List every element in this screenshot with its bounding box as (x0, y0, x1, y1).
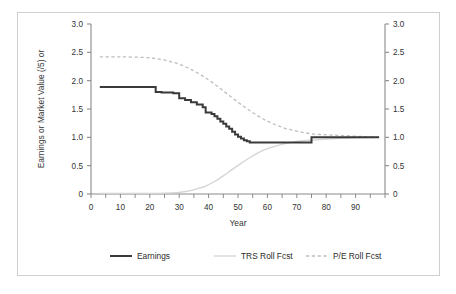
y-tick-label-left: 1.5 (72, 105, 84, 114)
series-line-trs-roll-fcst (100, 137, 379, 193)
legend-label-trs-roll-fcst: TRS Roll Fcst (241, 251, 293, 261)
y-tick-label-left: 1.0 (72, 133, 84, 142)
x-tick-label: 70 (292, 203, 302, 212)
y-tick-label-left: 3.0 (72, 20, 84, 29)
y-tick-label-right: 3.0 (393, 20, 405, 29)
x-tick-label: 0 (89, 203, 94, 212)
y-tick-label-left: 0 (78, 190, 83, 199)
series-line-p-e-roll-fcst (100, 57, 379, 138)
x-tick-label: 30 (175, 203, 185, 212)
y-tick-label-left: 2.5 (72, 48, 84, 57)
legend-label-earnings: Earnings (137, 251, 170, 261)
x-tick-label: 50 (233, 203, 243, 212)
y-tick-label-right: 1.0 (393, 133, 405, 142)
chart-plot-area: 00.51.01.52.02.53.000.51.01.52.02.53.001… (18, 13, 439, 275)
y-tick-label-right: 2.5 (393, 48, 405, 57)
series-line-earnings (100, 87, 379, 143)
x-tick-label: 60 (263, 203, 273, 212)
y-tick-label-left: 0.5 (72, 162, 84, 171)
y-tick-label-right: 1.5 (393, 105, 405, 114)
x-tick-label: 20 (145, 203, 155, 212)
y-tick-label-left: 2.0 (72, 77, 84, 86)
x-tick-label: 10 (116, 203, 126, 212)
x-tick-label: 80 (322, 203, 332, 212)
chart-figure: 00.51.01.52.02.53.000.51.01.52.02.53.001… (0, 0, 456, 294)
figure-frame: 00.51.01.52.02.53.000.51.01.52.02.53.001… (17, 12, 440, 276)
x-tick-label: 40 (204, 203, 214, 212)
y-tick-label-right: 2.0 (393, 77, 405, 86)
x-axis-title: Year (230, 218, 247, 228)
y-tick-label-right: 0 (393, 190, 398, 199)
y-axis-title: Earnings or Market Value (/5) or (36, 50, 46, 169)
y-tick-label-right: 0.5 (393, 162, 405, 171)
x-tick-label: 90 (351, 203, 361, 212)
legend-label-p-e-roll-fcst: P/E Roll Fcst (333, 251, 382, 261)
